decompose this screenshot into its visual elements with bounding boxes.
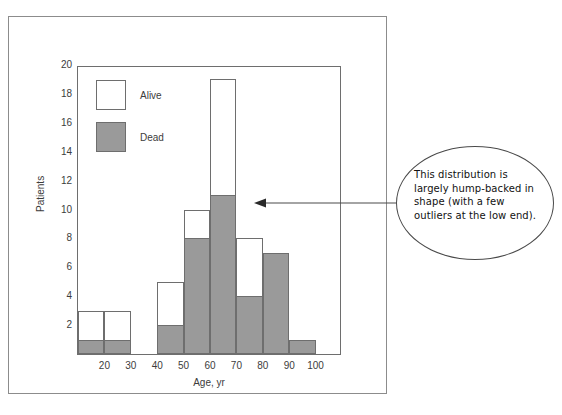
- histogram-bar: [157, 282, 183, 354]
- x-tick-label: 40: [152, 361, 163, 371]
- y-tick-label: 2: [66, 320, 72, 330]
- y-tick-label: 18: [61, 89, 72, 99]
- histogram-bar: [289, 340, 315, 354]
- x-tick-label: 30: [125, 361, 136, 371]
- bar-segment-dead: [184, 238, 210, 354]
- x-tick-label: 100: [307, 361, 324, 371]
- x-tick-label: 80: [257, 361, 268, 371]
- x-tick-label: 50: [178, 361, 189, 371]
- bar-segment-dead: [104, 340, 130, 354]
- y-tick-label: 14: [61, 147, 72, 157]
- histogram-bar: [263, 253, 289, 354]
- y-tick-label: 12: [61, 176, 72, 186]
- bar-segment-dead: [236, 296, 262, 354]
- y-tick-label: 20: [61, 60, 72, 70]
- bar-segment-dead: [157, 325, 183, 354]
- histogram-bar: [78, 311, 104, 354]
- histogram-bar: [236, 238, 262, 354]
- x-tick-label: 60: [204, 361, 215, 371]
- chart-legend: Alive Dead: [96, 78, 164, 162]
- callout-text: This distribution is largely hump-backed…: [414, 168, 538, 222]
- histogram-bar: [210, 79, 236, 354]
- y-tick-label: 8: [66, 233, 72, 243]
- x-tick-label: 20: [99, 361, 110, 371]
- legend-label-alive: Alive: [140, 90, 162, 101]
- y-tick-label: 16: [61, 118, 72, 128]
- x-axis-label: Age, yr: [77, 377, 341, 388]
- y-tick-label: 10: [61, 205, 72, 215]
- callout-annotation: This distribution is largely hump-backed…: [396, 146, 554, 260]
- x-tick-label: 90: [284, 361, 295, 371]
- bar-segment-dead: [263, 253, 289, 354]
- histogram-bar: [104, 311, 130, 354]
- legend-swatch-dead-icon: [96, 122, 126, 152]
- y-tick-label: 6: [66, 262, 72, 272]
- histogram-bar: [184, 210, 210, 355]
- bar-segment-dead: [78, 340, 104, 354]
- y-tick-label: 4: [66, 291, 72, 301]
- x-tick-label: 70: [231, 361, 242, 371]
- callout-arrow-icon: [252, 193, 402, 213]
- bar-segment-dead: [289, 340, 315, 354]
- y-axis-label: Patients: [35, 176, 46, 212]
- legend-swatch-alive-icon: [96, 80, 126, 110]
- legend-item-dead: Dead: [96, 120, 164, 154]
- legend-item-alive: Alive: [96, 78, 164, 112]
- bar-segment-dead: [210, 195, 236, 354]
- legend-label-dead: Dead: [140, 132, 164, 143]
